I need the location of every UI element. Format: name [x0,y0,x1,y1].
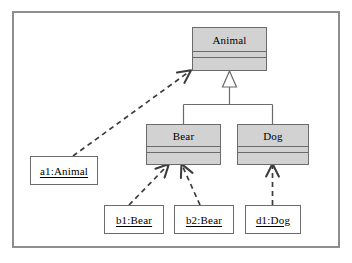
object-box-a1-animal[interactable]: a1:Animal [30,156,98,185]
class-operations-compartment-bear [147,153,220,164]
class-box-animal[interactable]: Animal [192,27,267,71]
object-box-b2-bear[interactable]: b2:Bear [174,205,234,234]
object-label-b2-bear: b2:Bear [186,214,222,226]
object-label-d1-dog: d1:Dog [256,214,290,226]
class-name-dog: Dog [238,125,308,147]
class-box-dog[interactable]: Dog [237,124,309,165]
class-name-bear: Bear [147,125,220,147]
class-operations-compartment-dog [238,153,308,164]
class-box-bear[interactable]: Bear [146,124,221,165]
uml-diagram-canvas: Animal Bear Dog a1:Animal b1:Bear b2:Bea… [0,0,352,263]
object-label-a1-animal: a1:Animal [40,165,88,177]
class-name-animal: Animal [193,28,266,52]
object-box-b1-bear[interactable]: b1:Bear [104,205,164,234]
object-box-d1-dog[interactable]: d1:Dog [245,205,301,234]
class-operations-compartment-animal [193,58,266,70]
object-label-b1-bear: b1:Bear [116,214,152,226]
